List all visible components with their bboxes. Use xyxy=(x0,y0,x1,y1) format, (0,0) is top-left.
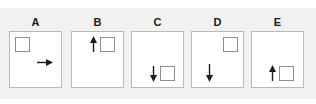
down-arrow-icon xyxy=(149,65,158,82)
right-arrow-icon xyxy=(37,58,54,67)
panel-b[interactable] xyxy=(71,31,124,88)
panel-label-d: D xyxy=(191,16,244,29)
panel-e[interactable] xyxy=(251,31,304,88)
panel-label-b: B xyxy=(71,16,124,29)
square-shape xyxy=(160,66,175,81)
panel-a[interactable] xyxy=(9,31,62,88)
square-shape xyxy=(223,37,238,52)
panel-c[interactable] xyxy=(131,31,184,88)
panel-label-a: A xyxy=(9,16,62,29)
figure-container: A B C D xyxy=(0,0,316,104)
panel-d[interactable] xyxy=(191,31,244,88)
panel-label-e: E xyxy=(251,16,304,29)
down-arrow-icon xyxy=(205,63,214,82)
up-arrow-icon xyxy=(268,65,277,82)
square-shape xyxy=(279,66,294,81)
up-arrow-icon xyxy=(89,36,98,53)
square-shape xyxy=(15,37,30,52)
square-shape xyxy=(100,37,115,52)
panel-label-c: C xyxy=(131,16,184,29)
